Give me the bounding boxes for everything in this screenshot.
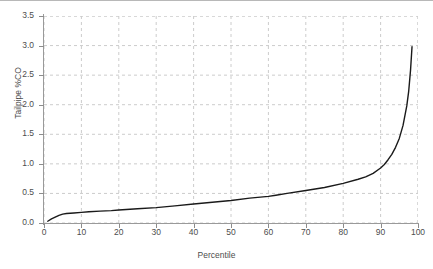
x-tick-mark [81,224,82,228]
y-tick-mark [39,16,44,17]
x-tick-label: 100 [403,228,433,237]
plot-canvas [44,16,418,223]
y-tick-mark [39,105,44,106]
vertical-gridlines [44,16,418,223]
plot-area [44,16,418,223]
y-axis-title: Tailpipe %CO [13,28,23,158]
x-tick-label: 0 [29,228,59,237]
y-tick-mark [39,46,44,47]
x-tick-mark [418,224,419,228]
x-tick-mark [194,224,195,228]
x-axis-title: Percentile [0,250,433,260]
x-tick-label: 90 [366,228,396,237]
x-tick-label: 50 [216,228,246,237]
x-tick-mark [381,224,382,228]
x-tick-mark [156,224,157,228]
y-tick-label: 0.0 [2,218,34,227]
x-tick-label: 60 [253,228,283,237]
x-tick-label: 40 [179,228,209,237]
x-tick-label: 80 [328,228,358,237]
x-tick-mark [343,224,344,228]
y-tick-label: 0.5 [2,188,34,197]
top-border-rule [0,0,433,1]
x-tick-label: 30 [141,228,171,237]
x-tick-label: 10 [66,228,96,237]
x-tick-mark [268,224,269,228]
x-tick-mark [231,224,232,228]
x-tick-mark [44,224,45,228]
chart-figure: 0.00.51.01.52.02.53.03.5 010203040506070… [0,0,433,269]
x-tick-mark [306,224,307,228]
y-tick-mark [39,75,44,76]
y-tick-mark [39,164,44,165]
y-tick-mark [39,193,44,194]
y-tick-label: 1.0 [2,159,34,168]
x-tick-label: 70 [291,228,321,237]
x-tick-mark [119,224,120,228]
y-tick-mark [39,134,44,135]
y-tick-label: 3.5 [2,11,34,20]
x-tick-label: 20 [104,228,134,237]
